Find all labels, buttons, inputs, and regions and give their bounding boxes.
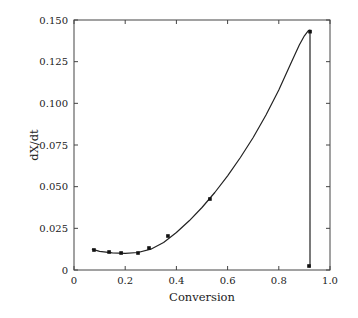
x-tick-label: 0.6 (220, 275, 236, 286)
data-point (92, 248, 96, 252)
x-tick-label: 0.8 (271, 275, 287, 286)
y-axis-label: dX/dt (27, 129, 41, 161)
data-point (307, 264, 311, 268)
plot-frame (74, 20, 330, 270)
data-point (166, 234, 170, 238)
y-tick-label: 0.150 (39, 15, 68, 26)
x-axis-label: Conversion (169, 290, 235, 304)
data-point (107, 250, 111, 254)
data-point (119, 251, 123, 255)
x-axis-ticks: 00.20.40.60.81.0 (71, 20, 338, 286)
x-tick-label: 0.4 (168, 275, 184, 286)
y-tick-label: 0.100 (39, 98, 68, 109)
y-axis-ticks: 00.0250.0500.0750.1000.1250.150 (39, 15, 330, 276)
data-point (136, 251, 140, 255)
x-tick-label: 1.0 (322, 275, 338, 286)
data-point (308, 30, 312, 34)
fit-curve (92, 30, 310, 268)
x-tick-label: 0.2 (117, 275, 133, 286)
series-layer (92, 30, 312, 268)
data-point (147, 246, 151, 250)
data-point (208, 197, 212, 201)
chart: 00.20.40.60.81.0 00.0250.0500.0750.1000.… (0, 0, 358, 318)
y-tick-label: 0.075 (39, 140, 68, 151)
y-tick-label: 0.025 (39, 223, 68, 234)
y-tick-label: 0 (62, 265, 68, 276)
y-tick-label: 0.050 (39, 181, 68, 192)
y-tick-label: 0.125 (39, 56, 68, 67)
x-tick-label: 0 (71, 275, 77, 286)
